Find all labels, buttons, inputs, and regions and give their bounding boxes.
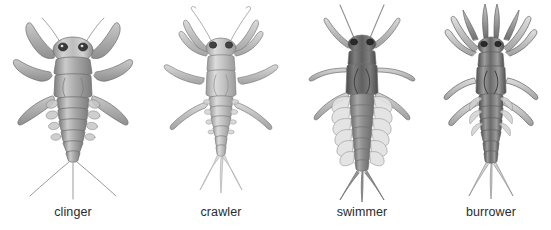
label-swimmer: swimmer bbox=[292, 205, 432, 219]
label-crawler: crawler bbox=[150, 205, 292, 219]
swimmer-illustration bbox=[292, 0, 432, 205]
clinger-illustration bbox=[2, 0, 144, 205]
specimen-swimmer bbox=[292, 0, 432, 230]
burrower-illustration bbox=[432, 0, 550, 205]
figure-root: clinger crawler swimmer burrower bbox=[0, 0, 551, 230]
specimen-crawler bbox=[150, 0, 292, 230]
specimen-clinger bbox=[2, 0, 144, 230]
crawler-illustration bbox=[150, 0, 292, 205]
label-clinger: clinger bbox=[2, 205, 144, 219]
label-burrower: burrower bbox=[432, 205, 550, 219]
specimen-burrower bbox=[432, 0, 550, 230]
